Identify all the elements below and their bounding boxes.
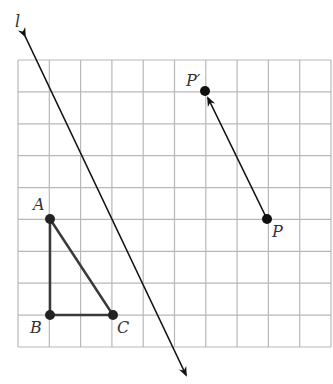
point-p-prime — [200, 86, 210, 96]
point-p — [262, 214, 272, 224]
label-c: C — [117, 318, 129, 337]
point-a — [45, 214, 55, 224]
point-b — [45, 310, 55, 320]
label-b: B — [29, 318, 42, 337]
label-p: P — [271, 222, 283, 241]
transformation-diagram: l A B C P P′ — [0, 0, 333, 384]
line-l-label: l — [15, 12, 20, 31]
label-a: A — [31, 195, 45, 214]
label-p-prime: P′ — [185, 71, 201, 90]
grid — [18, 60, 331, 347]
